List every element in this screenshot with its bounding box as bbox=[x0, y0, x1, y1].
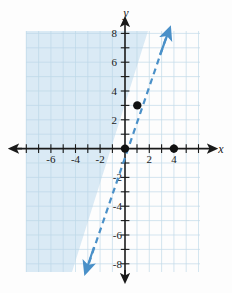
y-tick-label: 6 bbox=[112, 56, 118, 68]
coordinate-plane-figure: -6 -4 -2 2 4 8 6 4 2 -2 -4 -6 -8 x y bbox=[0, 0, 232, 293]
y-tick-label: 2 bbox=[112, 114, 118, 126]
x-tick-label: -2 bbox=[96, 153, 105, 165]
shaded-region bbox=[26, 31, 148, 272]
x-tick-label: -4 bbox=[71, 153, 81, 165]
y-axis-label: y bbox=[122, 6, 129, 20]
y-tick-label: -8 bbox=[113, 258, 123, 270]
y-tick-label: 8 bbox=[112, 27, 118, 39]
x-tick-label: 4 bbox=[171, 153, 177, 165]
line-arrow-up bbox=[160, 33, 168, 55]
x-tick-label: -6 bbox=[46, 153, 56, 165]
point-4-0 bbox=[170, 144, 178, 152]
point-origin bbox=[121, 144, 129, 152]
y-tick-label: 4 bbox=[112, 85, 118, 97]
y-tick-label: -6 bbox=[113, 229, 123, 241]
y-tick-label: -4 bbox=[113, 200, 123, 212]
x-axis-label: x bbox=[217, 142, 224, 156]
x-tick-label: 2 bbox=[147, 153, 153, 165]
graph-canvas: -6 -4 -2 2 4 8 6 4 2 -2 -4 -6 -8 x y bbox=[0, 0, 232, 293]
point-1-3 bbox=[133, 101, 141, 109]
